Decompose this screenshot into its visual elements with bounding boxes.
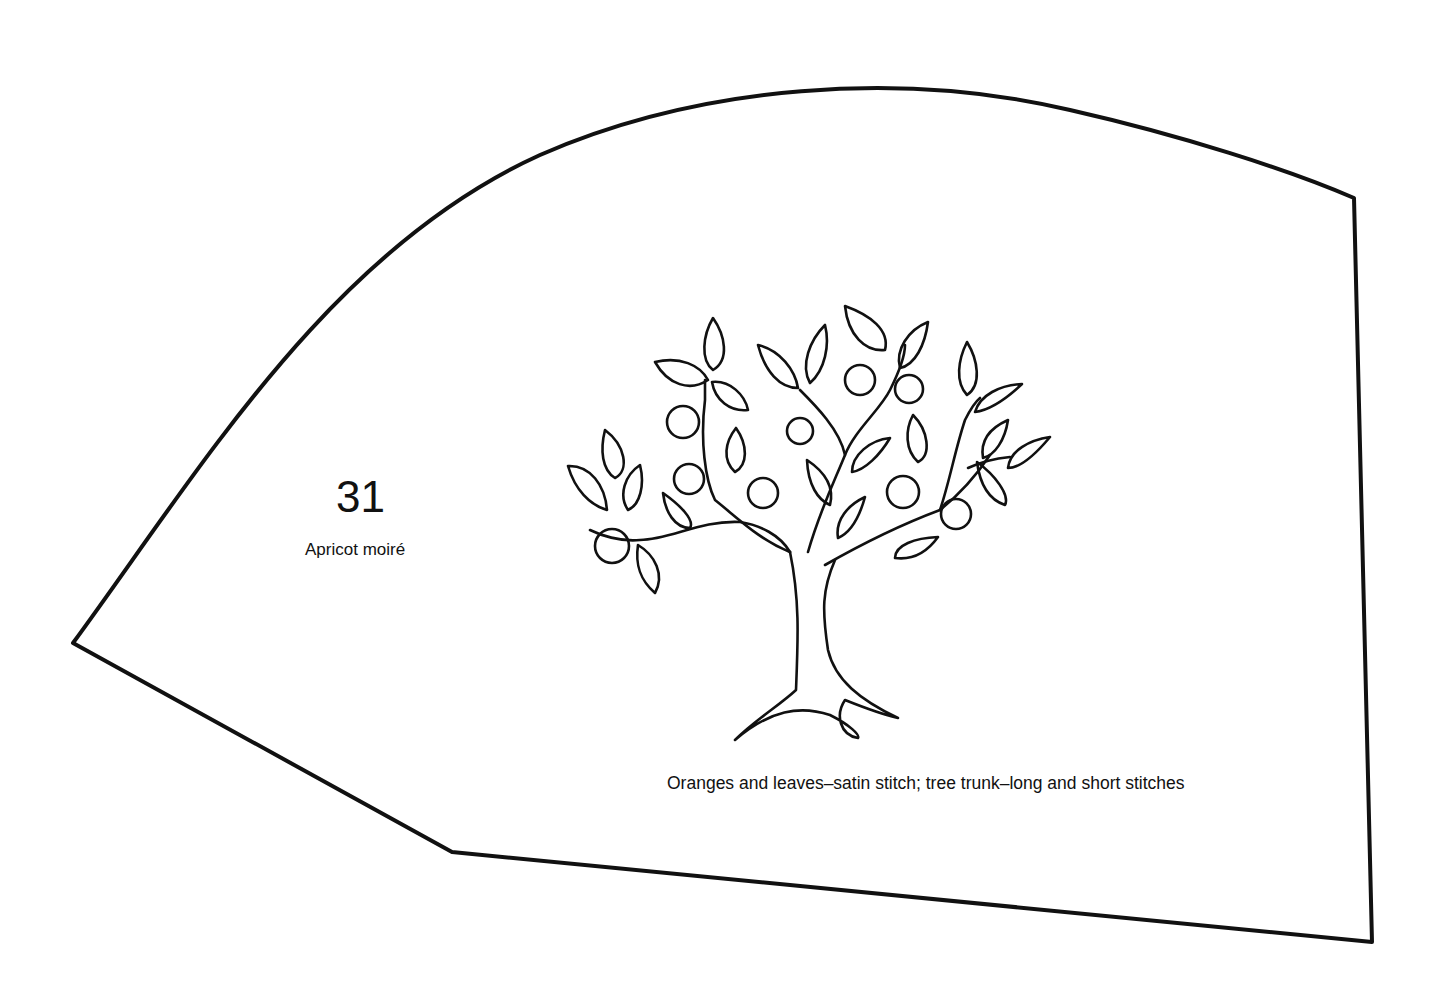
stitch-instructions: Oranges and leaves–satin stitch; tree tr… [667, 773, 1185, 793]
tree-icon [568, 306, 1050, 740]
pattern-outline [73, 88, 1372, 942]
pattern-number: 31 [336, 472, 385, 522]
fabric-label: Apricot moiré [305, 540, 405, 560]
embroidery-pattern [0, 0, 1446, 988]
